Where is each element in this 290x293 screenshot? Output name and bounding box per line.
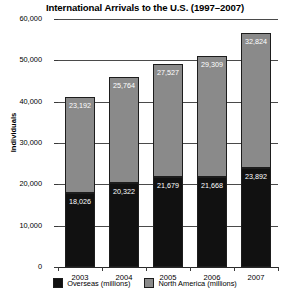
- x-tick-mark: [146, 267, 147, 271]
- x-tick-mark: [234, 267, 235, 271]
- bar-value-label: 18,026: [66, 197, 94, 206]
- legend-item[interactable]: Overseas (millions): [53, 278, 130, 288]
- bar-segment-north-america[interactable]: 27,527: [153, 64, 183, 178]
- y-tick-mark: [54, 19, 58, 20]
- bar-segment-north-america[interactable]: 29,309: [197, 56, 227, 177]
- bar-segment-overseas[interactable]: 23,892: [241, 168, 271, 267]
- bar-segment-north-america[interactable]: 25,764: [109, 77, 139, 183]
- bar-value-label: 23,892: [242, 172, 270, 181]
- x-tick-mark: [278, 267, 279, 271]
- chart-title: International Arrivals to the U.S. (1997…: [0, 2, 290, 13]
- y-tick-label: 30,000: [0, 138, 42, 147]
- legend-label: Overseas (millions): [67, 279, 130, 288]
- bar-group[interactable]: 23,89232,824: [241, 19, 271, 267]
- y-tick-label: 0: [0, 262, 42, 271]
- x-tick-mark: [58, 267, 59, 271]
- y-tick-label: 60,000: [0, 14, 42, 23]
- plot-area: 010,00020,00030,00040,00050,00060,00018,…: [58, 19, 278, 267]
- bar-value-label: 21,679: [154, 181, 182, 190]
- bar-segment-overseas[interactable]: 21,679: [153, 177, 183, 267]
- stacked-bar-chart: International Arrivals to the U.S. (1997…: [0, 0, 290, 293]
- bar-segment-north-america[interactable]: 23,192: [65, 97, 95, 193]
- bar-segment-north-america[interactable]: 32,824: [241, 33, 271, 169]
- chart-legend: Overseas (millions)North America (millio…: [0, 278, 290, 288]
- legend-item[interactable]: North America (millions): [144, 278, 236, 288]
- bar-segment-overseas[interactable]: 20,322: [109, 183, 139, 267]
- y-gridline: [58, 267, 278, 268]
- y-tick-label: 10,000: [0, 221, 42, 230]
- x-tick-mark: [190, 267, 191, 271]
- bar-value-label: 29,309: [198, 60, 226, 69]
- x-tick-mark: [102, 267, 103, 271]
- bar-group[interactable]: 20,32225,764: [109, 19, 139, 267]
- bar-segment-overseas[interactable]: 18,026: [65, 193, 95, 268]
- bar-value-label: 23,192: [66, 101, 94, 110]
- bar-segment-overseas[interactable]: 21,668: [197, 177, 227, 267]
- bar-group[interactable]: 18,02623,192: [65, 19, 95, 267]
- bar-value-label: 25,764: [110, 81, 138, 90]
- bar-group[interactable]: 21,67927,527: [153, 19, 183, 267]
- y-tick-label: 50,000: [0, 55, 42, 64]
- bar-value-label: 21,668: [198, 181, 226, 190]
- y-axis-title: Individuals: [9, 98, 18, 168]
- y-tick-mark: [54, 143, 58, 144]
- bar-value-label: 27,527: [154, 68, 182, 77]
- bar-value-label: 20,322: [110, 187, 138, 196]
- bar-value-label: 32,824: [242, 37, 270, 46]
- legend-swatch: [144, 278, 154, 288]
- y-tick-mark: [54, 184, 58, 185]
- legend-label: North America (millions): [158, 279, 236, 288]
- y-tick-mark: [54, 60, 58, 61]
- legend-swatch: [53, 278, 63, 288]
- bar-group[interactable]: 21,66829,309: [197, 19, 227, 267]
- y-tick-label: 20,000: [0, 179, 42, 188]
- y-tick-mark: [54, 226, 58, 227]
- y-tick-mark: [54, 102, 58, 103]
- y-tick-label: 40,000: [0, 97, 42, 106]
